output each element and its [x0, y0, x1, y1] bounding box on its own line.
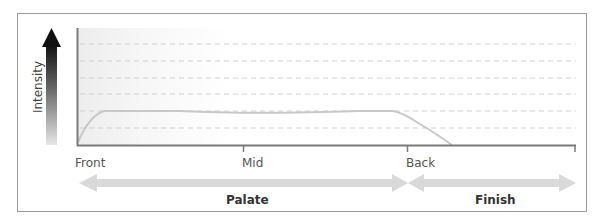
finish-arrow-icon [408, 174, 576, 192]
plot-background [78, 28, 575, 145]
y-axis-label: Intensity [31, 61, 45, 113]
tick-label-mid: Mid [242, 157, 263, 169]
region-label-finish: Finish [475, 194, 516, 206]
palate-intensity-diagram [0, 0, 604, 222]
region-label-palate: Palate [226, 194, 269, 206]
palate-arrow-icon [79, 174, 408, 192]
tick-label-front: Front [75, 157, 105, 169]
tick-label-back: Back [406, 157, 435, 169]
